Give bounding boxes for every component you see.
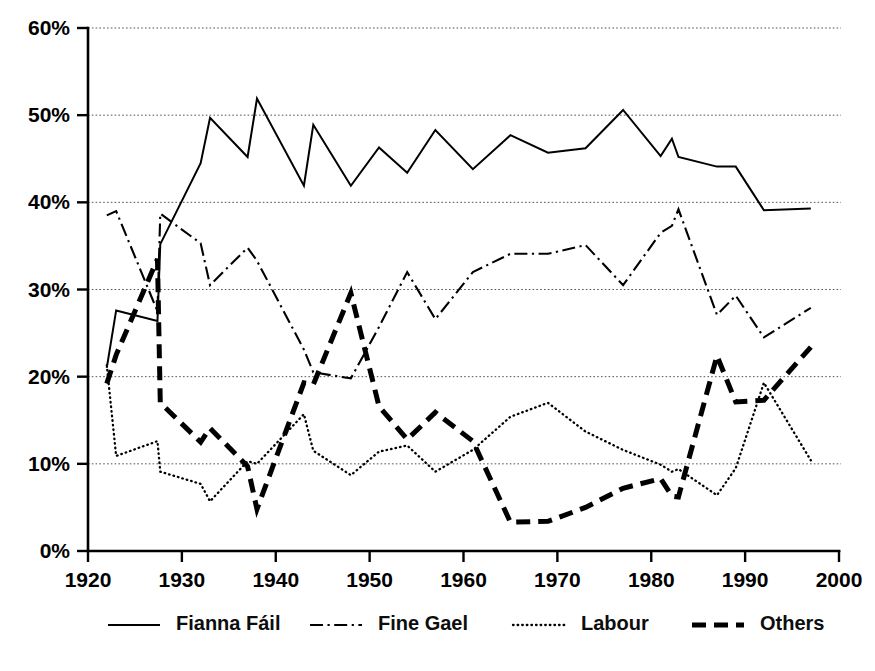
- x-tick-label-1970: 1970: [534, 568, 581, 591]
- x-axis-tick-labels: 192019301940195019601970198019902000: [65, 568, 863, 591]
- chart-page: 0%10%20%30%40%50%60% 1920193019401950196…: [0, 0, 875, 671]
- y-tick-label-20: 20%: [28, 365, 70, 388]
- y-tick-label-40: 40%: [28, 190, 70, 213]
- line-chart: 0%10%20%30%40%50%60% 1920193019401950196…: [0, 0, 875, 671]
- legend-label-fine-gael: Fine Gael: [378, 612, 468, 634]
- y-tick-label-30: 30%: [28, 278, 70, 301]
- x-tick-label-1950: 1950: [346, 568, 393, 591]
- legend-label-fianna-f-il: Fianna Fáil: [176, 612, 280, 634]
- x-tick-label-1920: 1920: [65, 568, 112, 591]
- x-tick-label-1990: 1990: [722, 568, 769, 591]
- x-tick-label-1960: 1960: [440, 568, 487, 591]
- legend-label-others: Others: [760, 612, 824, 634]
- x-tick-label-1930: 1930: [159, 568, 206, 591]
- y-tick-label-10: 10%: [28, 452, 70, 475]
- y-tick-label-60: 60%: [28, 16, 70, 39]
- x-tick-label-1940: 1940: [252, 568, 299, 591]
- y-tick-label-0: 0%: [40, 539, 71, 562]
- x-tick-label-2000: 2000: [816, 568, 863, 591]
- x-tick-label-1980: 1980: [628, 568, 675, 591]
- legend-label-labour: Labour: [581, 612, 649, 634]
- y-tick-label-50: 50%: [28, 103, 70, 126]
